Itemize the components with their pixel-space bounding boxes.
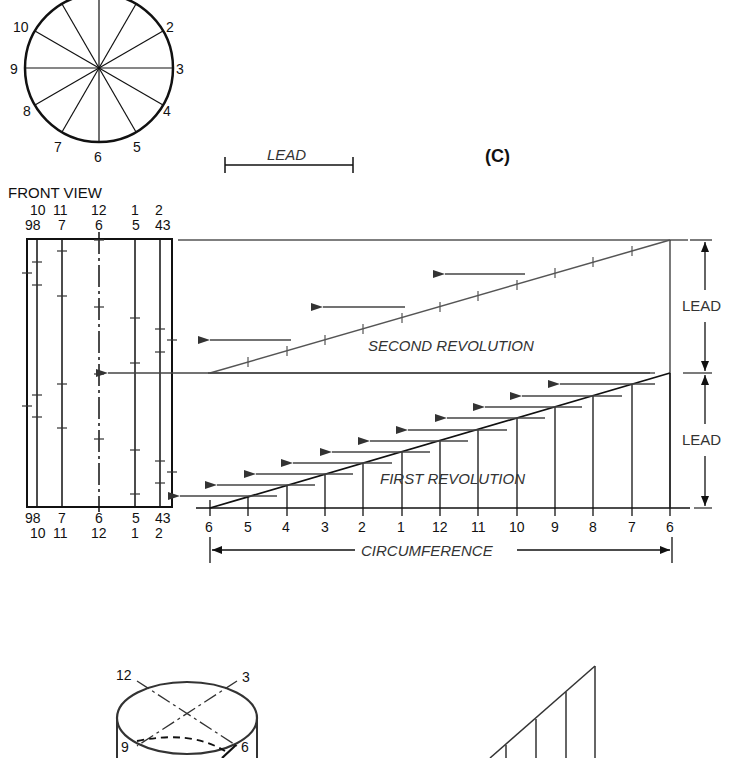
baseline-label: 1 — [397, 519, 405, 535]
front-view-top-labels: 10 11 12 1 2 98 7 6 5 43 — [25, 202, 171, 233]
helix-drawing: 2 3 4 5 6 7 8 9 10 LEAD (C) FRONT VIEW 1… — [0, 0, 732, 758]
point-label-9: 9 — [10, 61, 18, 77]
front-view-bottom-labels: 98 7 6 5 43 10 11 12 1 2 — [25, 510, 171, 541]
lead-scale-label: LEAD — [267, 146, 306, 163]
baseline-label: 9 — [551, 519, 559, 535]
first-revolution-label: FIRST REVOLUTION — [380, 470, 525, 487]
point-label-8: 8 — [23, 103, 31, 119]
label-12: 12 — [91, 525, 107, 541]
pictorial-cylinder — [117, 681, 257, 758]
point-label-4: 4 — [163, 103, 171, 119]
point-label-10: 10 — [13, 19, 29, 35]
front-view-rectangle — [22, 232, 177, 512]
baseline-label: 6 — [205, 519, 213, 535]
baseline-label: 12 — [432, 519, 448, 535]
point-label-7: 7 — [54, 139, 62, 155]
baseline-label: 3 — [321, 519, 329, 535]
circumference-label: CIRCUMFERENCE — [361, 542, 494, 559]
pictorial-label-3: 3 — [242, 669, 250, 685]
label-2: 2 — [155, 202, 163, 218]
label-7: 7 — [58, 217, 66, 233]
first-revolution-verticals — [210, 373, 670, 516]
label-43: 43 — [155, 217, 171, 233]
baseline-label: 7 — [628, 519, 636, 535]
top-view-circle — [25, 0, 173, 142]
baseline-labels: 6 5 4 3 2 1 12 11 10 9 8 7 6 — [205, 519, 674, 535]
point-label-6: 6 — [94, 149, 102, 165]
baseline-label: 11 — [471, 519, 486, 535]
label-1: 1 — [131, 202, 139, 218]
label-98: 98 — [25, 217, 41, 233]
front-view-title: FRONT VIEW — [8, 184, 103, 201]
pictorial-label-6: 6 — [241, 739, 249, 755]
label-10: 10 — [30, 202, 46, 218]
lead-upper-label: LEAD — [682, 297, 721, 314]
label-10: 10 — [30, 525, 46, 541]
label-5: 5 — [132, 510, 140, 526]
figure-label: (C) — [485, 146, 510, 166]
label-7: 7 — [58, 510, 66, 526]
pictorial-development — [490, 666, 595, 758]
baseline-label: 10 — [509, 519, 525, 535]
point-label-3: 3 — [176, 61, 184, 77]
second-revolution-label: SECOND REVOLUTION — [368, 337, 534, 354]
label-6: 6 — [95, 510, 103, 526]
pictorial-label-12: 12 — [116, 667, 132, 683]
baseline-label: 4 — [282, 519, 290, 535]
label-11: 11 — [53, 525, 68, 541]
label-98: 98 — [25, 510, 41, 526]
label-12: 12 — [91, 202, 107, 218]
lead-lower-label: LEAD — [682, 431, 721, 448]
label-43: 43 — [155, 510, 171, 526]
baseline-label: 6 — [666, 519, 674, 535]
label-1: 1 — [131, 525, 139, 541]
label-11: 11 — [53, 202, 68, 218]
point-label-5: 5 — [133, 139, 141, 155]
label-5: 5 — [132, 217, 140, 233]
label-6: 6 — [95, 217, 103, 233]
baseline-label: 2 — [358, 519, 366, 535]
pictorial-label-9: 9 — [121, 739, 129, 755]
baseline-label: 5 — [244, 519, 252, 535]
point-label-2: 2 — [166, 19, 174, 35]
label-2: 2 — [155, 525, 163, 541]
baseline-label: 8 — [589, 519, 597, 535]
